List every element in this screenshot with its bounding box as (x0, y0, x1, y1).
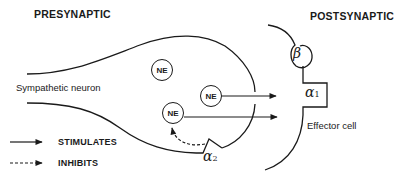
alpha1-receptor-label: α1 (305, 84, 320, 100)
neuron-label: Sympathetic neuron (16, 82, 101, 93)
legend-stimulates-label: STIMULATES (58, 137, 117, 147)
alpha1-receptor-notch (265, 66, 327, 170)
inhibit-feedback-arrow (172, 128, 205, 145)
beta-symbol: β (293, 45, 301, 61)
effector-cell-label: Effector cell (307, 120, 356, 131)
adrenergic-synapse-diagram: PRESYNAPTIC POSTSYNAPTIC Sympathetic neu… (0, 0, 405, 177)
beta-receptor-label: β (293, 45, 301, 61)
ne-vesicle-2: NE (200, 85, 222, 107)
alpha1-subscript: 1 (314, 90, 319, 99)
presynaptic-heading: PRESYNAPTIC (34, 8, 111, 20)
postsynaptic-membrane (268, 25, 312, 68)
postsynaptic-heading: POSTSYNAPTIC (310, 10, 394, 22)
alpha2-subscript: 2 (212, 154, 217, 163)
ne-vesicle-3: NE (162, 102, 184, 124)
ne-vesicle-1: NE (151, 59, 173, 81)
alpha2-receptor-label: α2 (203, 148, 218, 164)
legend-inhibits-label: INHIBITS (58, 158, 98, 168)
terminal-membrane-right (222, 104, 255, 148)
